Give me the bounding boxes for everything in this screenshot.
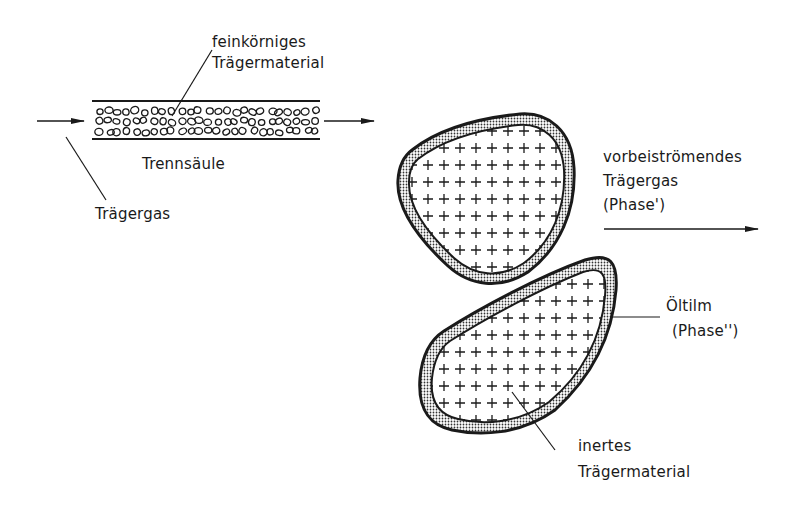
granule — [238, 126, 247, 135]
granule — [215, 119, 221, 125]
inert-label-line2: Trägermaterial — [578, 463, 690, 482]
chromatography-diagram — [0, 0, 787, 509]
granule — [167, 107, 175, 115]
granule — [214, 108, 222, 116]
granule — [300, 107, 310, 116]
granule — [222, 128, 231, 136]
granule — [274, 117, 283, 126]
granule — [133, 128, 142, 136]
granule — [232, 109, 241, 117]
packing-label-line2: Trägermaterial — [212, 54, 324, 73]
granule — [112, 128, 121, 137]
granule — [158, 108, 166, 115]
flow-label-line3: (Phase') — [603, 196, 665, 215]
granule — [151, 107, 158, 115]
granule — [205, 127, 212, 133]
granule — [150, 128, 158, 136]
granule — [95, 116, 104, 125]
granule — [274, 108, 284, 117]
granule — [104, 117, 112, 123]
granule — [123, 127, 130, 135]
granule — [206, 108, 213, 115]
granule — [178, 117, 187, 125]
granule — [150, 117, 159, 126]
granule — [142, 129, 150, 136]
granule — [141, 110, 148, 116]
flow-label-line2: Trägergas — [603, 172, 678, 191]
granule — [231, 127, 239, 135]
carrier-gas-label: Trägergas — [95, 205, 170, 224]
inert-label-line1: inertes — [578, 437, 631, 456]
granule — [139, 116, 147, 124]
granule — [240, 106, 248, 114]
granule — [223, 106, 232, 115]
granule — [240, 117, 248, 124]
granule — [105, 107, 114, 114]
granule — [248, 118, 255, 126]
granule — [212, 127, 221, 135]
carrier-gas-leader-line — [66, 137, 106, 200]
granule — [94, 128, 103, 136]
packing-leader-line — [172, 50, 212, 116]
granule — [112, 118, 120, 125]
granule — [167, 118, 177, 127]
granule — [283, 118, 292, 127]
granule — [97, 109, 103, 115]
granule — [293, 109, 301, 116]
granule — [255, 107, 264, 116]
packing-label-line1: feinkörniges — [212, 33, 306, 52]
granule — [193, 106, 201, 114]
column-label: Trennsäule — [142, 155, 225, 174]
granule — [301, 119, 309, 124]
particle-upper — [398, 114, 574, 284]
granule — [130, 105, 140, 115]
separation-column — [92, 101, 320, 139]
granule — [178, 127, 188, 136]
granule — [267, 128, 274, 135]
granule — [123, 118, 131, 126]
granule — [123, 109, 130, 116]
granule — [250, 126, 259, 135]
granule — [312, 118, 319, 125]
particle-lower — [420, 257, 617, 433]
granule — [159, 117, 166, 125]
film-label-line2: (Phase'') — [672, 322, 739, 341]
granule — [204, 119, 212, 126]
granule — [179, 108, 186, 115]
granule — [113, 110, 121, 115]
granule — [275, 129, 283, 136]
granule — [258, 119, 265, 125]
granule — [283, 108, 293, 117]
packing-granules — [94, 105, 320, 137]
flow-label-line1: vorbeiströmendes — [603, 148, 742, 167]
granule — [312, 106, 321, 114]
granule — [292, 117, 301, 125]
film-label-line1: Öltilm — [666, 297, 712, 316]
